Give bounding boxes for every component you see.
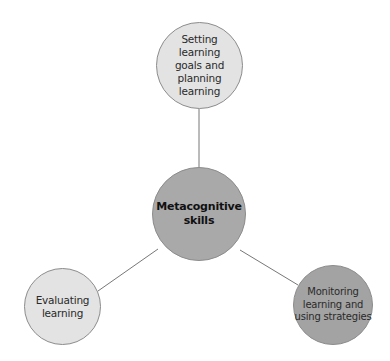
label-line: skills [156, 214, 242, 228]
node-setting-goals-label: Setting learning goals and planning lear… [175, 33, 224, 98]
label-line: planning [175, 72, 224, 85]
edge-center-right [240, 250, 298, 285]
label-line: goals and [175, 59, 224, 72]
edge-center-left [98, 249, 158, 291]
label-line: learning and [295, 299, 372, 312]
label-line: Evaluating [36, 294, 90, 307]
label-line: Metacognitive [156, 200, 242, 214]
label-line: learning [36, 307, 90, 320]
node-monitoring-learning: Monitoring learning and using strategies [293, 265, 373, 345]
node-evaluating-learning: Evaluating learning [24, 268, 101, 345]
node-setting-goals: Setting learning goals and planning lear… [156, 22, 243, 109]
label-line: learning [175, 46, 224, 59]
node-evaluating-learning-label: Evaluating learning [36, 294, 90, 320]
label-line: Setting [175, 33, 224, 46]
label-line: using strategies [295, 311, 372, 324]
label-line: learning [175, 85, 224, 98]
node-metacognitive-skills: Metacognitive skills [152, 167, 246, 261]
node-monitoring-learning-label: Monitoring learning and using strategies [295, 286, 372, 324]
label-line: Monitoring [295, 286, 372, 299]
node-metacognitive-skills-label: Metacognitive skills [156, 200, 242, 228]
